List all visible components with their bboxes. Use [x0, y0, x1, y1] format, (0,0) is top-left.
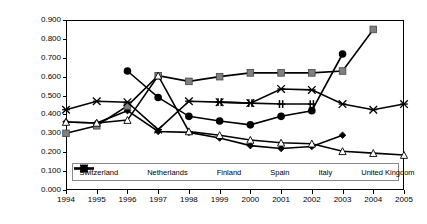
data-point-circle: [185, 113, 193, 121]
data-point-plus: [277, 100, 285, 108]
series-italy: [62, 85, 408, 133]
data-point-cross: [62, 106, 70, 114]
legend-item-label: Spain: [270, 168, 289, 177]
data-point-square: [278, 70, 285, 77]
data-point-circle: [124, 67, 132, 75]
x-tick-mark: [404, 190, 405, 194]
x-tick-mark: [343, 190, 344, 194]
legend-item-label: Italy: [318, 168, 332, 177]
data-point-circle: [247, 121, 255, 129]
data-series-layer: [0, 0, 427, 224]
data-point-cross: [185, 97, 193, 105]
data-point-square: [216, 73, 223, 80]
square-marker-icon: [124, 168, 146, 177]
data-point-cross: [216, 98, 224, 106]
circle-marker-icon: [338, 168, 360, 177]
data-point-cross: [400, 100, 408, 108]
data-point-square: [370, 26, 377, 33]
legend-item-italy[interactable]: Italy: [295, 168, 332, 177]
data-point-cross: [369, 106, 377, 114]
legend-item-united-kingdom[interactable]: United Kingdom: [338, 168, 414, 177]
x-tick-mark: [220, 190, 221, 194]
legend-item-label: Finland: [217, 168, 242, 177]
data-point-cross: [277, 85, 285, 93]
data-point-circle: [216, 117, 224, 125]
data-point-circle: [154, 94, 162, 102]
data-point-circle: [80, 165, 88, 173]
data-point-cross: [339, 100, 347, 108]
legend-item-finland[interactable]: Finland: [194, 168, 242, 177]
series-switzerland: [63, 107, 346, 151]
data-point-square: [339, 68, 346, 75]
x-tick-mark: [189, 190, 190, 194]
data-point-square: [186, 78, 193, 85]
x-tick-label: 2005: [384, 196, 424, 204]
line-chart: Normalized differentiation index 0.0000.…: [0, 0, 427, 224]
plus-marker-icon: [247, 168, 269, 177]
x-tick-mark: [250, 190, 251, 194]
data-point-cross: [247, 99, 255, 107]
data-point-square: [309, 70, 316, 77]
data-point-cross: [308, 86, 316, 94]
legend-item-netherlands[interactable]: Netherlands: [124, 168, 187, 177]
data-point-diamond: [339, 132, 346, 139]
data-point-circle: [308, 107, 316, 115]
x-tick-mark: [66, 190, 67, 194]
x-tick-mark: [312, 190, 313, 194]
chart-legend: SwitzerlandNetherlandsFinlandSpainItalyU…: [72, 163, 399, 181]
x-tick-mark: [158, 190, 159, 194]
data-point-square: [247, 70, 254, 77]
x-tick-mark: [373, 190, 374, 194]
legend-item-label: Netherlands: [147, 168, 187, 177]
x-tick-mark: [127, 190, 128, 194]
legend-item-label: United Kingdom: [361, 168, 414, 177]
data-point-cross: [93, 97, 101, 105]
data-point-circle: [339, 50, 347, 58]
triangle-open-marker-icon: [194, 168, 216, 177]
data-point-circle: [277, 113, 285, 121]
legend-item-spain[interactable]: Spain: [247, 168, 289, 177]
cross-marker-icon: [295, 168, 317, 177]
x-tick-mark: [281, 190, 282, 194]
x-tick-mark: [97, 190, 98, 194]
data-point-square: [63, 130, 70, 137]
